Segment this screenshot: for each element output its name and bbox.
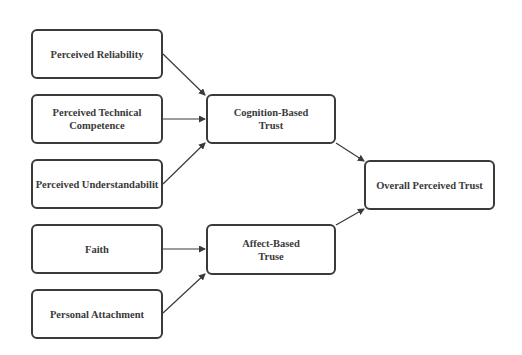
edge-cognition-to-overall [336, 143, 364, 161]
node-perceived-reliability: Perceived Reliability [31, 29, 163, 79]
node-affect-based-trust: Affect-Based Truse [206, 224, 336, 275]
edge-affect-to-overall [336, 209, 364, 225]
node-perceived-technical-competence: Perceived Technical Competence [31, 94, 163, 144]
edge-understandability-to-cognition [163, 143, 205, 184]
edge-reliability-to-cognition [163, 54, 205, 95]
node-personal-attachment: Personal Attachment [31, 289, 163, 339]
edge-attachment-to-affect [163, 274, 205, 313]
node-faith: Faith [31, 224, 163, 274]
node-perceived-understandability: Perceived Understandabilit [31, 159, 163, 209]
node-cognition-based-trust: Cognition-Based Trust [206, 94, 336, 144]
node-overall-perceived-trust: Overall Perceived Trust [364, 160, 495, 210]
trust-model-diagram: Perceived Reliability Perceived Technica… [0, 0, 522, 355]
